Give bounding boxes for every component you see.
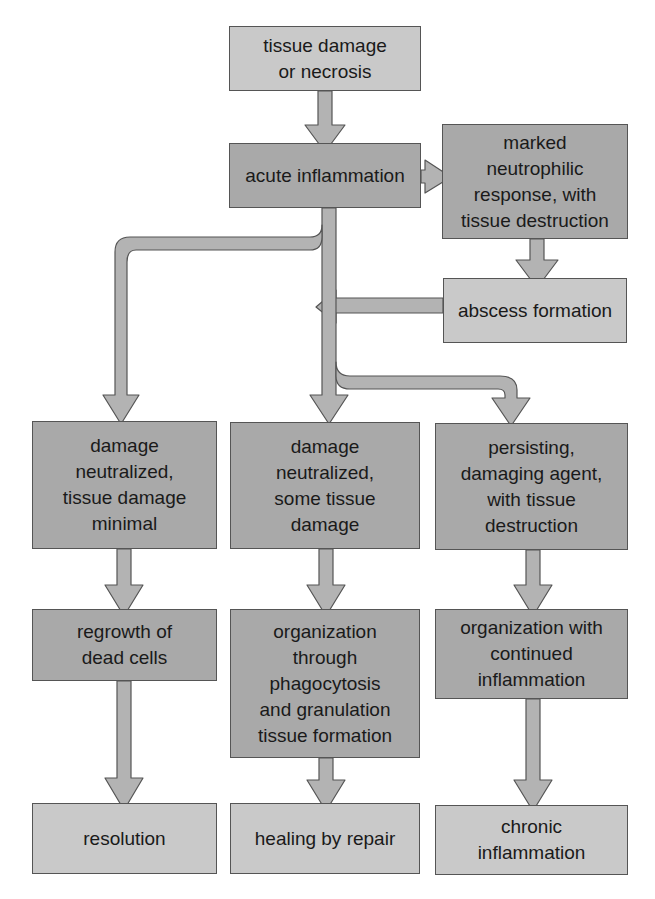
arrow-some-to-organization <box>307 549 345 616</box>
arrow-persisting-to-continued <box>514 550 552 616</box>
node-tissue-damage: tissue damage or necrosis <box>229 26 421 91</box>
node-organization-phagocytosis: organization through phagocytosis and gr… <box>230 609 420 758</box>
node-some-tissue-damage: damage neutralized, some tissue damage <box>230 422 420 549</box>
arrow-regrowth-to-resolution <box>105 681 143 810</box>
node-resolution: resolution <box>32 803 217 874</box>
node-persisting-agent: persisting, damaging agent, with tissue … <box>435 423 628 550</box>
arrow-minimal-to-regrowth <box>105 549 143 616</box>
arrow-trunk-to-right <box>336 362 530 426</box>
arrow-trunk-to-left <box>103 225 322 424</box>
node-damage-minimal: damage neutralized, tissue damage minima… <box>32 421 217 549</box>
node-organization-continued: organization with continued inflammation <box>435 609 628 699</box>
arrow-continued-to-chronic <box>514 699 552 811</box>
node-abscess-formation: abscess formation <box>443 278 627 343</box>
node-marked-neutrophilic: marked neutrophilic response, with tissu… <box>442 124 628 239</box>
node-chronic-inflammation: chronic inflammation <box>435 805 628 875</box>
node-healing-by-repair: healing by repair <box>230 803 420 874</box>
node-acute-inflammation: acute inflammation <box>229 143 421 208</box>
node-regrowth: regrowth of dead cells <box>32 609 217 681</box>
